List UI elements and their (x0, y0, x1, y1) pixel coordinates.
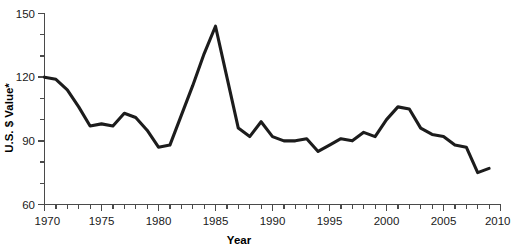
x-tick-label: 2000 (374, 215, 400, 227)
x-axis (45, 205, 501, 212)
x-axis-tick-labels: 197019751980198519901995200020052010 (35, 215, 511, 227)
y-axis-tick-labels: 6090120150 (16, 8, 35, 211)
chart-container: 6090120150 19701975198019851990199520002… (0, 0, 517, 252)
x-tick-label: 1985 (203, 215, 229, 227)
y-tick-label: 150 (16, 8, 35, 20)
x-tick-label: 1975 (89, 215, 115, 227)
y-tick-label: 60 (22, 199, 35, 211)
x-axis-title: Year (227, 234, 252, 246)
x-tick-label: 1995 (317, 215, 343, 227)
line-chart: 6090120150 19701975198019851990199520002… (0, 0, 517, 252)
x-tick-label: 2005 (431, 215, 457, 227)
y-axis-title: U.S. $ Value* (3, 83, 15, 153)
x-tick-label: 1980 (146, 215, 172, 227)
y-axis (38, 14, 45, 205)
x-tick-label: 1990 (260, 215, 286, 227)
x-tick-label: 2010 (485, 215, 511, 227)
y-tick-label: 120 (16, 71, 35, 83)
y-tick-label: 90 (22, 135, 35, 147)
data-series-line (45, 26, 490, 172)
x-tick-label: 1970 (35, 215, 61, 227)
